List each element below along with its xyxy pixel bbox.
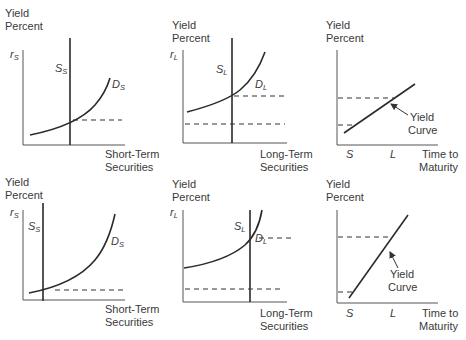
- curve-label-line2: Curve: [408, 124, 437, 136]
- supply-label: SL: [216, 63, 228, 77]
- panel-top-short-term: Yield Percent rS SS DS Short-Term Securi…: [5, 7, 159, 173]
- panel-bottom-yield-curve: Yield Percent Yield Curve S L Time to Ma…: [326, 178, 459, 332]
- panel-top-yield-curve: Yield Percent Yield Curve S L Time to Ma…: [326, 19, 459, 173]
- y-axis-label-percent: Percent: [5, 20, 43, 32]
- rate-label: rS: [10, 206, 19, 220]
- demand-label: DS: [112, 78, 125, 92]
- axes: [23, 210, 125, 300]
- curve-label-line2: Curve: [388, 281, 417, 293]
- panel-bottom-long-term: Yield Percent rL SL DL Long-Term Securit…: [170, 178, 313, 332]
- supply-label: SS: [55, 62, 67, 76]
- y-axis-label-percent: Percent: [5, 189, 43, 201]
- panel-top-long-term: Yield Percent rL SL DL Long-Term Securit…: [170, 19, 313, 173]
- x-axis-label-line2: Securities: [105, 316, 154, 328]
- x-axis-label-line1: Long-Term: [260, 307, 313, 319]
- curve-label-line1: Yield: [390, 268, 414, 280]
- y-axis-label-yield: Yield: [5, 176, 29, 188]
- rate-label: rL: [170, 206, 178, 220]
- x-axis-label-line1: Time to: [422, 307, 458, 319]
- curve-label-line1: Yield: [410, 111, 434, 123]
- y-axis-label-percent: Percent: [326, 32, 364, 44]
- tick-label-l: L: [390, 148, 396, 160]
- y-axis-label-yield: Yield: [326, 178, 350, 190]
- tick-label-l: L: [390, 307, 396, 319]
- y-axis-label-yield: Yield: [172, 178, 196, 190]
- rate-label: rL: [170, 48, 178, 62]
- arrow-icon: [390, 252, 398, 268]
- tick-label-s: S: [346, 307, 354, 319]
- demand-curve: [187, 52, 265, 112]
- supply-label: SL: [234, 220, 246, 234]
- y-axis-label-percent: Percent: [326, 191, 364, 203]
- supply-label: SS: [28, 220, 40, 234]
- arrow-icon: [391, 104, 408, 115]
- panel-bottom-short-term: Yield Percent rS SS DS Short-Term Securi…: [5, 176, 159, 328]
- yield-curve-diagram: Yield Percent rS SS DS Short-Term Securi…: [0, 0, 466, 340]
- x-axis-label-line2: Securities: [105, 161, 154, 173]
- demand-label: DL: [255, 78, 267, 92]
- x-axis-label-line2: Maturity: [419, 320, 459, 332]
- tick-label-s: S: [346, 148, 354, 160]
- y-axis-label-yield: Yield: [5, 7, 29, 19]
- y-axis-label-percent: Percent: [172, 191, 210, 203]
- y-axis-label-percent: Percent: [172, 32, 210, 44]
- x-axis-label-line2: Securities: [260, 161, 309, 173]
- x-axis-label-line1: Short-Term: [105, 148, 159, 160]
- rate-label: rS: [10, 48, 19, 62]
- axes: [23, 50, 125, 145]
- x-axis-label-line1: Short-Term: [105, 303, 159, 315]
- x-axis-label-line2: Maturity: [419, 161, 459, 173]
- demand-label: DL: [255, 232, 267, 246]
- x-axis-label-line1: Long-Term: [260, 148, 313, 160]
- x-axis-label-line1: Time to: [422, 148, 458, 160]
- y-axis-label-yield: Yield: [326, 19, 350, 31]
- y-axis-label-yield: Yield: [172, 19, 196, 31]
- x-axis-label-line2: Securities: [260, 320, 309, 332]
- demand-label: DS: [111, 235, 124, 249]
- yield-curve-line: [344, 84, 415, 133]
- demand-curve: [29, 214, 115, 293]
